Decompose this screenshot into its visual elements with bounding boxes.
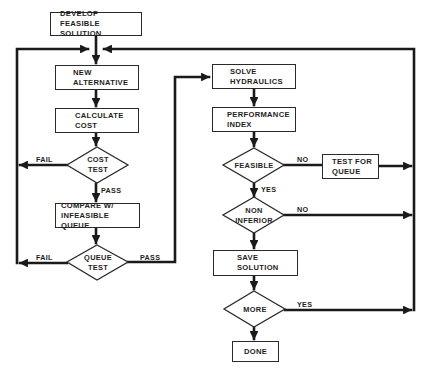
new-alternative-line1: NEW — [73, 68, 138, 78]
queue-fail-label: FAIL — [36, 253, 53, 262]
solve-line1: SOLVE — [230, 67, 295, 77]
develop-line2: FEASIBLE SOLUTION — [60, 19, 141, 39]
queue-test-label: QUEUE TEST — [84, 253, 112, 273]
flowchart-canvas: DEVELOP FEASIBLE SOLUTION NEW ALTERNATIV… — [0, 0, 431, 377]
save-line1: SAVE — [237, 253, 297, 263]
new-alternative-line2: ALTERNATIVE — [73, 78, 138, 88]
solve-hydraulics-box: SOLVE HYDRAULICS — [212, 64, 296, 89]
queue-test-line1: QUEUE — [84, 253, 112, 263]
save-line2: SOLUTION — [237, 263, 297, 273]
edge-queue-test-pass — [128, 77, 209, 262]
non-inferior-line1: NON — [235, 206, 273, 216]
cost-pass-label: PASS — [101, 186, 121, 195]
test-for-queue-line2: QUEUE — [332, 167, 378, 177]
cost-test-label: COST TEST — [87, 155, 109, 175]
feasible-label: FEASIBLE — [235, 161, 274, 171]
feasible-yes-label: YES — [261, 185, 276, 194]
cost-fail-label: FAIL — [36, 155, 53, 164]
non-inferior-line2: INFERIOR — [235, 216, 273, 226]
done-box: DONE — [232, 341, 279, 362]
more-label: MORE — [243, 305, 266, 315]
performance-index-box: PERFORMANCE INDEX — [212, 107, 296, 132]
feasible-no-label: NO — [297, 155, 308, 164]
calculate-cost-line1: CALCULATE — [75, 111, 138, 121]
non-inferior-label: NON INFERIOR — [235, 206, 273, 226]
performance-line1: PERFORMANCE — [227, 110, 295, 120]
develop-line1: DEVELOP — [60, 9, 141, 19]
test-for-queue-line1: TEST FOR — [332, 157, 378, 167]
queue-test-line2: TEST — [84, 263, 112, 273]
calculate-cost-box: CALCULATE COST — [55, 108, 139, 133]
solve-line2: HYDRAULICS — [230, 77, 295, 87]
flowchart-connectors — [0, 0, 431, 377]
test-for-queue-box: TEST FOR QUEUE — [322, 154, 379, 179]
compare-line2: INFEASIBLE QUEUE — [61, 211, 139, 231]
feasible-line1: FEASIBLE — [235, 161, 274, 171]
more-line1: MORE — [243, 305, 266, 315]
done-label: DONE — [244, 347, 267, 357]
cost-test-line2: TEST — [87, 165, 109, 175]
performance-line2: INDEX — [227, 120, 295, 130]
non-inferior-no-label: NO — [297, 205, 308, 214]
more-yes-label: YES — [297, 300, 312, 309]
cost-test-line1: COST — [87, 155, 109, 165]
calculate-cost-line2: COST — [75, 121, 138, 131]
save-solution-box: SAVE SOLUTION — [213, 250, 298, 276]
develop-feasible-solution-box: DEVELOP FEASIBLE SOLUTION — [50, 12, 142, 36]
compare-infeasible-queue-box: COMPARE W/ INFEASIBLE QUEUE — [55, 203, 140, 228]
new-alternative-box: NEW ALTERNATIVE — [55, 65, 139, 90]
compare-line1: COMPARE W/ — [61, 201, 139, 211]
queue-pass-label: PASS — [140, 253, 160, 262]
